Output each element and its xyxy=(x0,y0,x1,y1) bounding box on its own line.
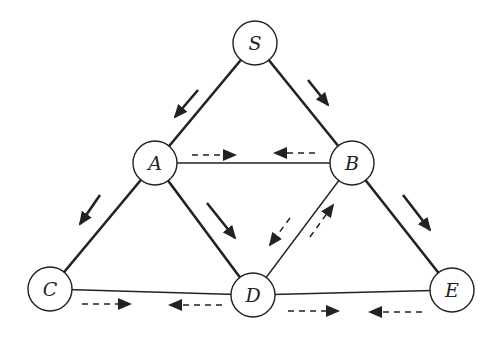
edge-s-b xyxy=(255,43,352,163)
dashed-arrow-icon xyxy=(270,218,290,245)
node-e: E xyxy=(430,268,474,312)
solid-arrow-icon xyxy=(403,195,430,230)
edge-b-e xyxy=(352,163,452,290)
edge-a-d xyxy=(155,163,253,295)
node-d: D xyxy=(231,273,275,317)
solid-arrow-icon xyxy=(80,195,100,224)
node-label: D xyxy=(244,284,260,306)
edge-a-c xyxy=(50,163,155,289)
node-c: C xyxy=(28,267,72,311)
node-label: A xyxy=(146,152,162,174)
edge-b-d xyxy=(253,163,352,295)
graph-diagram: SABCDE xyxy=(0,0,498,338)
solid-arrow-icon xyxy=(175,90,198,117)
node-label: C xyxy=(43,278,58,300)
node-label: E xyxy=(444,279,459,301)
nodes-layer: SABCDE xyxy=(28,21,474,317)
node-label: S xyxy=(248,32,261,54)
edge-c-d xyxy=(50,289,253,295)
solid-arrow-icon xyxy=(207,203,235,238)
edge-d-e xyxy=(253,290,452,295)
node-label: B xyxy=(344,152,359,174)
node-a: A xyxy=(133,141,177,185)
node-b: B xyxy=(330,141,374,185)
node-s: S xyxy=(233,21,277,65)
dashed-arrow-icon xyxy=(310,205,333,237)
solid-arrow-icon xyxy=(308,80,328,105)
edge-s-a xyxy=(155,43,255,163)
edges-layer xyxy=(50,43,452,295)
